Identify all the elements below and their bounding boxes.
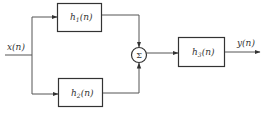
h2-to-sum-line <box>103 63 139 93</box>
summing-junction: Σ <box>132 48 147 63</box>
sigma-icon: Σ <box>136 51 142 60</box>
block-h1: h1(n) <box>58 4 102 32</box>
block-h2: h2(n) <box>59 79 103 107</box>
branch-split <box>32 17 58 94</box>
diagram-canvas: x(n) h1(n) h2(n) Σ <box>0 0 265 118</box>
block-h1-label: h1(n) <box>70 12 93 23</box>
input-label: x(n) <box>7 42 25 52</box>
block-diagram: x(n) h1(n) h2(n) Σ <box>0 0 265 118</box>
block-h2-label: h2(n) <box>71 88 94 99</box>
block-h3: h3(n) <box>179 38 225 67</box>
h1-to-sum-line <box>102 15 139 47</box>
block-h3-label: h3(n) <box>192 47 215 58</box>
output-label: y(n) <box>236 38 255 48</box>
